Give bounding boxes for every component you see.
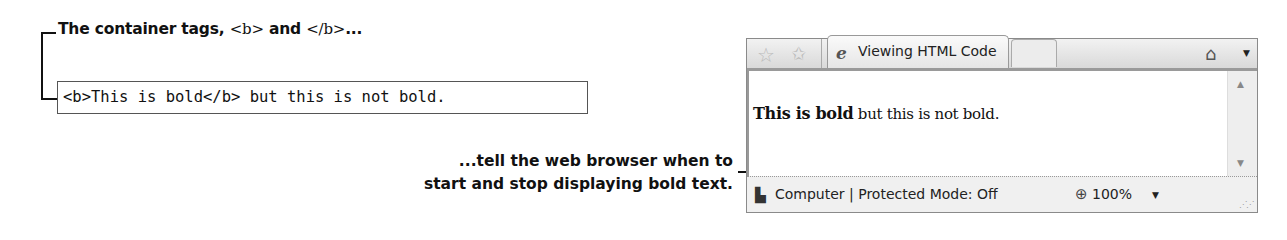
security-zone-status[interactable]: Computer | Protected Mode: Off — [775, 186, 998, 202]
tab-label: Viewing HTML Code — [858, 43, 997, 59]
rendered-page-text: This is bold but this is not bold. — [753, 104, 999, 123]
bold-text: This is bold — [753, 104, 853, 123]
zoom-dropdown-icon[interactable]: ▼ — [1152, 190, 1159, 200]
vertical-scrollbar[interactable]: ▲ ▼ — [1227, 71, 1257, 176]
status-bar: ▙ Computer | Protected Mode: Off ⊕ 100% … — [747, 176, 1257, 212]
ie-icon: e — [836, 43, 847, 63]
normal-text: but this is not bold. — [853, 105, 999, 123]
favorites-group: ☆ ✩ — [747, 39, 822, 68]
zoom-magnifier-icon[interactable]: ⊕ — [1075, 185, 1088, 203]
scroll-down-arrow-icon[interactable]: ▼ — [1237, 158, 1244, 168]
tab-viewing-html-code[interactable]: e Viewing HTML Code — [827, 35, 1009, 68]
home-icon[interactable]: ⌂ — [1205, 43, 1216, 64]
favorites-star-icon[interactable]: ☆ — [757, 43, 775, 67]
browser-window: ☆ ✩ e Viewing HTML Code ⌂ ▼ This is bold… — [746, 38, 1258, 213]
tab-bar: ☆ ✩ e Viewing HTML Code ⌂ ▼ — [747, 39, 1257, 71]
scroll-up-arrow-icon[interactable]: ▲ — [1237, 79, 1244, 89]
zoom-level[interactable]: 100% — [1092, 186, 1132, 202]
new-tab-button[interactable] — [1011, 39, 1057, 67]
computer-icon: ▙ — [755, 187, 766, 203]
home-dropdown-icon[interactable]: ▼ — [1243, 48, 1250, 58]
page-content: This is bold but this is not bold. ▲ ▼ — [747, 71, 1257, 176]
add-favorites-star-icon[interactable]: ✩ — [791, 43, 806, 64]
resize-grip-icon[interactable]: ⋰⋰ — [1239, 200, 1253, 209]
